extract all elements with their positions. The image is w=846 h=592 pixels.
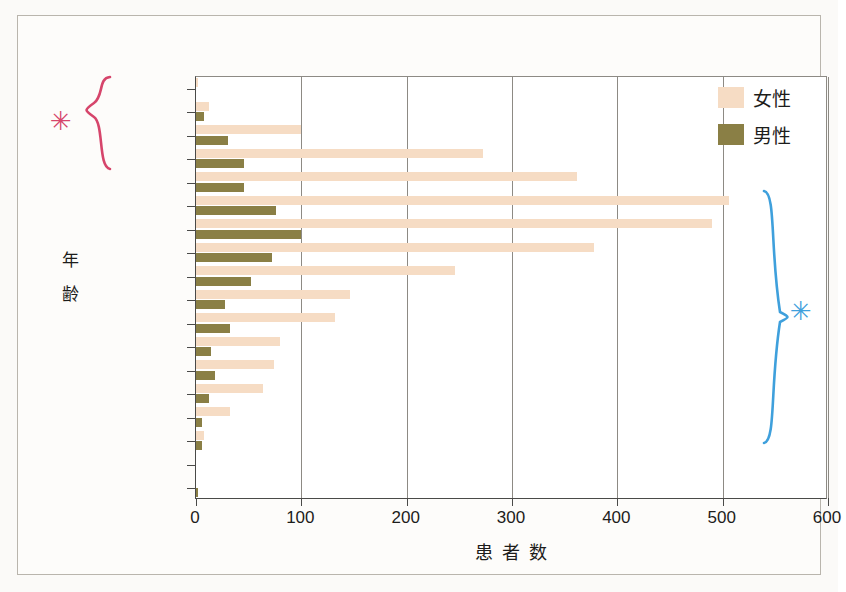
figure-frame: 年 齢 0 ～ 45 ～ 910～1415～1920～2425～2930～343… — [17, 15, 821, 575]
bar-female — [196, 243, 594, 252]
y-axis-tick — [187, 277, 196, 278]
bar-female — [196, 290, 350, 299]
x-axis-tick-label: 300 — [471, 508, 551, 528]
y-axis-tick — [187, 89, 196, 90]
bar-female — [196, 172, 577, 181]
blue-brace-annotation — [760, 188, 794, 450]
y-axis-title: 年 齢 — [58, 244, 82, 312]
bar-male — [196, 371, 215, 380]
bar-male — [196, 183, 244, 192]
bar-male — [196, 347, 211, 356]
y-axis-tick — [187, 206, 196, 207]
y-axis-tick — [187, 136, 196, 137]
y-axis-tick — [187, 112, 196, 113]
bar-male — [196, 488, 198, 497]
y-axis-tick — [187, 324, 196, 325]
x-axis-tick-label: 500 — [682, 508, 762, 528]
legend-entry: 男性 — [718, 121, 791, 148]
gridline — [828, 77, 829, 498]
y-axis-tick — [187, 441, 196, 442]
red-brace-annotation — [80, 74, 114, 178]
y-axis-tick — [187, 488, 196, 489]
y-axis-title-char: 齢 — [58, 278, 82, 312]
legend-swatch — [718, 124, 744, 145]
bar-female — [196, 78, 198, 87]
bar-male — [196, 230, 301, 239]
legend-label: 男性 — [753, 121, 791, 148]
bar-male — [196, 324, 230, 333]
x-axis-tick — [512, 498, 513, 506]
bar-male — [196, 112, 204, 121]
x-axis-tick — [301, 498, 302, 506]
bar-female — [196, 407, 230, 416]
x-axis-title: 患者数 — [195, 538, 827, 564]
x-axis-tick — [828, 498, 829, 506]
legend-swatch — [718, 87, 744, 108]
bar-female — [196, 149, 483, 158]
y-axis-tick — [187, 253, 196, 254]
x-axis-tick-label: 100 — [260, 508, 340, 528]
gridline — [617, 77, 618, 498]
x-axis-tick — [407, 498, 408, 506]
bar-male — [196, 136, 228, 145]
legend-entry: 女性 — [718, 84, 791, 111]
bar-female — [196, 219, 712, 228]
blue-asterisk-annotation: ✳ — [790, 298, 812, 324]
bar-female — [196, 360, 274, 369]
y-axis-tick — [187, 183, 196, 184]
bar-female — [196, 384, 263, 393]
bar-female — [196, 125, 301, 134]
bar-female — [196, 313, 335, 322]
legend-label: 女性 — [753, 84, 791, 111]
gridline — [301, 77, 302, 498]
x-axis-tick-label: 0 — [155, 508, 235, 528]
gridline — [407, 77, 408, 498]
bar-male — [196, 441, 202, 450]
bar-male — [196, 277, 251, 286]
bar-male — [196, 159, 244, 168]
y-axis-title-char: 年 — [58, 244, 82, 278]
y-axis-tick — [187, 394, 196, 395]
x-axis-tick — [196, 498, 197, 506]
legend: 女性男性 — [718, 84, 791, 158]
bar-female — [196, 337, 280, 346]
x-axis-tick — [723, 498, 724, 506]
y-axis-tick — [187, 300, 196, 301]
y-axis-tick — [187, 418, 196, 419]
bar-male — [196, 300, 225, 309]
gridline — [512, 77, 513, 498]
bar-male — [196, 418, 202, 427]
bar-male — [196, 394, 209, 403]
bar-female — [196, 102, 209, 111]
bar-female — [196, 266, 455, 275]
bar-male — [196, 206, 276, 215]
y-axis-tick — [187, 230, 196, 231]
bar-female — [196, 431, 204, 440]
y-axis-tick — [187, 371, 196, 372]
red-asterisk-annotation: ✳ — [50, 108, 72, 134]
y-axis-tick — [187, 465, 196, 466]
bar-male — [196, 253, 272, 262]
bar-female — [196, 196, 729, 205]
x-axis-tick — [617, 498, 618, 506]
x-axis-tick-label: 400 — [576, 508, 656, 528]
x-axis-tick-label: 600 — [787, 508, 846, 528]
x-axis-tick-label: 200 — [366, 508, 446, 528]
y-axis-tick — [187, 159, 196, 160]
y-axis-tick — [187, 347, 196, 348]
